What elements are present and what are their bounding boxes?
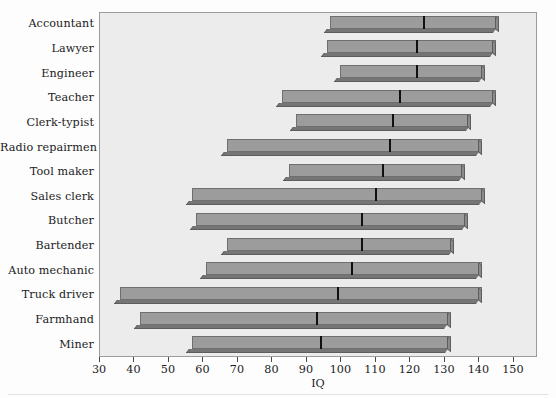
x-axis-tick [168,357,169,362]
range-bar-face [296,114,472,127]
x-axis-tick [478,357,479,362]
x-axis-tick-label: 140 [468,363,489,376]
page-bottom-rule [8,394,548,395]
range-bar-face [340,65,485,78]
x-axis-title: IQ [99,377,537,390]
median-marker [316,312,318,325]
range-bar-face [227,238,455,251]
range-bar [117,287,482,304]
range-bar-face [140,312,450,325]
x-axis-tick [237,357,238,362]
median-marker [416,40,418,53]
x-axis-tick-label: 100 [330,363,351,376]
median-marker [351,262,353,275]
range-bar-face [227,139,482,152]
range-bar-shadow [220,152,478,156]
range-bar-shadow [134,325,448,329]
iq-by-occupation-chart: AccountantLawyerEngineerTeacherClerk-typ… [0,0,556,398]
range-bar-end-cap [478,287,482,303]
category-label: Truck driver [0,289,94,300]
median-marker [423,16,425,29]
range-bar-end-cap [481,65,485,81]
range-bar-end-cap [478,262,482,278]
category-label: Bartender [0,240,94,251]
category-label: Radio repairmen [0,142,94,153]
range-bar [279,90,496,107]
category-label: Teacher [0,92,94,103]
category-label: Lawyer [0,43,94,54]
x-axis-tick [513,357,514,362]
range-bar-shadow [283,177,462,181]
range-bar [224,238,455,255]
range-bar [189,336,451,353]
range-bar-end-cap [447,312,451,328]
x-axis-tick-label: 90 [299,363,313,376]
category-label: Miner [0,339,94,350]
category-label: Butcher [0,215,94,226]
x-axis-tick-label: 40 [126,363,140,376]
x-axis-tick-label: 130 [433,363,454,376]
range-bar-shadow [324,29,496,33]
category-label: Clerk-typist [0,117,94,128]
category-label: Tool maker [0,166,94,177]
range-bar-end-cap [495,16,499,32]
range-bar-face [327,40,496,53]
x-axis-tick-label: 150 [502,363,523,376]
range-bar-end-cap [464,213,468,229]
range-bar-end-cap [461,164,465,180]
x-axis: 30405060708090100110120130140150 [99,357,537,379]
x-axis-tick [271,357,272,362]
range-bar-shadow [189,226,465,230]
range-bar-shadow [186,201,482,205]
range-bar [193,213,468,230]
x-axis-tick [306,357,307,362]
median-marker [375,188,377,201]
range-bar-end-cap [492,40,496,56]
range-bar [203,262,482,279]
x-axis-tick-label: 60 [195,363,209,376]
median-marker [389,139,391,152]
median-marker [320,336,322,349]
range-bar-end-cap [447,336,451,352]
x-axis-tick [444,357,445,362]
x-axis-tick [409,357,410,362]
range-bar [189,188,485,205]
range-bar-end-cap [492,90,496,106]
range-bar [337,65,485,82]
category-label: Sales clerk [0,191,94,202]
range-bar-face [196,213,468,226]
range-bar [324,40,496,57]
bars-layer [99,12,537,357]
x-axis-tick-label: 70 [230,363,244,376]
x-axis-tick-label: 30 [92,363,106,376]
median-marker [382,164,384,177]
range-bar-shadow [320,53,492,57]
range-bar-face [192,188,485,201]
median-marker [361,238,363,251]
range-bar-face [282,90,496,103]
range-bar [286,164,465,181]
range-bar [224,139,482,156]
median-marker [416,65,418,78]
range-bar-end-cap [481,188,485,204]
median-marker [337,287,339,300]
range-bar-shadow [200,275,479,279]
range-bar-end-cap [478,139,482,155]
x-axis-tick-label: 120 [399,363,420,376]
x-axis-tick [99,357,100,362]
x-axis-tick [133,357,134,362]
median-marker [361,213,363,226]
range-bar-face [289,164,465,177]
range-bar-shadow [334,78,482,82]
range-bar-shadow [220,251,451,255]
x-axis-tick-label: 50 [161,363,175,376]
range-bar-face [330,16,499,29]
category-label: Engineer [0,68,94,79]
range-bar [327,16,499,33]
category-axis-labels: AccountantLawyerEngineerTeacherClerk-typ… [0,12,94,357]
category-label: Auto mechanic [0,265,94,276]
category-label: Accountant [0,18,94,29]
x-axis-tick-label: 80 [264,363,278,376]
range-bar-shadow [276,103,493,107]
median-marker [399,90,401,103]
